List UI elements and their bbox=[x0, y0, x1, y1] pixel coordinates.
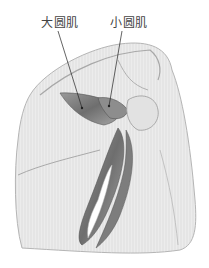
anatomy-figure: 大圆肌 小圆肌 bbox=[0, 0, 209, 268]
torso-shape bbox=[15, 43, 195, 253]
shoulder-illustration bbox=[0, 0, 209, 268]
pointer-dot-teres-minor bbox=[108, 105, 110, 107]
pointer-dot-teres-major bbox=[81, 107, 83, 109]
label-teres-minor: 小圆肌 bbox=[110, 16, 148, 30]
label-teres-major: 大圆肌 bbox=[41, 16, 79, 30]
